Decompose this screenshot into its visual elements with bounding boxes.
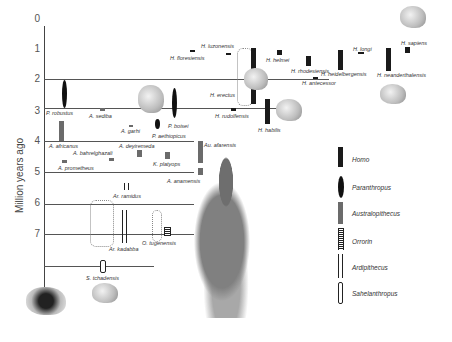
afarensis-reconstruction-illustration [186, 148, 266, 318]
gridline-2 [44, 108, 284, 109]
h-helmei-label: H. helmei [266, 57, 289, 63]
p-boisei-spindle [172, 88, 177, 118]
hominin-faces-icon [26, 287, 66, 315]
p-robustus-label: P. robustus [46, 110, 73, 116]
legend-ardipithecus-swatch [338, 254, 343, 278]
s-tchadensis-label: S. tchadensis [86, 275, 119, 281]
h-rudolfensis-label: H. rudolfensis [215, 113, 249, 119]
p-boisei-label: P. boisei [168, 123, 188, 129]
y-tick-3: 3 [30, 105, 40, 116]
h-neanderthalensis-bar [386, 48, 391, 71]
a-bahrelghazali-label: A. bahrelghazali [73, 150, 112, 156]
gridline-6 [44, 234, 194, 235]
ar-ramidus-label: Ar. ramidus [113, 193, 141, 199]
h-erectus-skull-icon [244, 68, 268, 90]
y-axis-label: Million years ago [14, 138, 25, 213]
legend-orrorin-swatch [338, 228, 344, 250]
h-floresiensis-bar [190, 50, 195, 52]
h-helmei-bar [277, 50, 282, 55]
sahelanthropus-skull-icon [92, 283, 118, 303]
y-tick-2: 2 [30, 73, 40, 84]
h-sapiens-bar [405, 47, 410, 53]
legend-homo-label: Homo [352, 156, 369, 163]
h-longi-bar [358, 52, 364, 54]
k-platyops-bar [165, 152, 170, 159]
h-rhodesiensis-bar [306, 56, 311, 66]
h-floresiensis-label: H. floresiensis [170, 55, 205, 61]
h-rhodesiensis-label: H. rhodesiensis [291, 68, 329, 74]
h-habilis-label: H. habilis [258, 127, 281, 133]
a-africanus-bar [59, 121, 64, 141]
h-luzonensis-bar [226, 53, 231, 55]
legend-australopithecus-swatch [338, 202, 343, 224]
ar-kadabba-label: Ar. kadabba [109, 246, 138, 252]
gridline-3 [44, 141, 194, 142]
h-habilis-skull-icon [276, 99, 302, 121]
y-tick-5: 5 [30, 166, 40, 177]
gridline-5 [44, 204, 194, 205]
gridline-1 [44, 79, 329, 80]
legend-paranthropus-label: Paranthropus [352, 184, 391, 191]
p-robustus-spindle [62, 80, 67, 108]
legend-ardipithecus-label: Ardipithecus [352, 264, 388, 271]
h-heidelbergensis-bar [338, 50, 343, 70]
o-tugenensis-label: O. tugenensis [142, 240, 176, 246]
k-platyops-label: K. platyops [153, 161, 180, 167]
h-neanderthalensis-label: H. neanderthalensis [377, 72, 426, 78]
h-habilis-bar [265, 99, 270, 124]
h-sapiens-label: H. sapiens [401, 40, 427, 46]
a-prometheus-bar [62, 160, 67, 163]
a-garhi-bar [129, 125, 133, 127]
p-aethiopicus-label: P. aethiopicus [152, 133, 186, 139]
h-longi-label: H. longi [353, 46, 372, 52]
s-tchadensis-bar [100, 260, 106, 273]
h-sapiens-skull-icon [400, 6, 426, 28]
ar-kadabba-bar [122, 210, 127, 243]
legend-sahelanthropus-label: Sahelanthropus [352, 290, 398, 297]
legend-homo-swatch [338, 147, 343, 167]
a-sediba-bar [100, 108, 105, 111]
ardi-skeleton-icon [90, 200, 114, 247]
ar-ramidus-bar [124, 183, 129, 190]
gridline-4 [44, 172, 194, 173]
neanderthal-skull-icon [380, 84, 406, 104]
a-deyiremeda-label: A. deyiremeda [119, 143, 154, 149]
a-prometheus-label: A. prometheus [58, 165, 94, 171]
paranthropus-skull-icon [138, 85, 164, 113]
y-tick-6: 6 [30, 197, 40, 208]
a-deyiremeda-bar [137, 150, 142, 157]
p-aethiopicus-spindle [155, 119, 160, 129]
h-rudolfensis-bar [231, 108, 236, 111]
h-antecessor-bar [313, 77, 318, 79]
h-antecessor-label: H. antecessor [302, 80, 336, 86]
h-luzonensis-label: H. luzonensis [201, 43, 234, 49]
y-tick-1: 1 [30, 43, 40, 54]
legend-australopithecus-label: Australopithecus [352, 210, 400, 217]
y-tick-0: 0 [30, 13, 40, 24]
legend-orrorin-label: Orrorin [352, 238, 372, 245]
gridline-0 [44, 46, 45, 47]
gridline-7 [44, 266, 154, 267]
o-tugenensis-bar [164, 227, 171, 236]
femur-icon [152, 210, 162, 242]
h-erectus-label: H. erectus [210, 92, 235, 98]
a-bahrelghazali-bar [109, 158, 114, 161]
y-axis-line [44, 26, 45, 306]
y-tick-7: 7 [30, 228, 40, 239]
a-africanus-label: A. africanus [49, 143, 78, 149]
a-garhi-label: A. garhi [121, 128, 140, 134]
a-sediba-label: A. sediba [89, 113, 112, 119]
legend-sahelanthropus-swatch [338, 282, 343, 304]
y-tick-4: 4 [30, 135, 40, 146]
legend-paranthropus-swatch [338, 176, 344, 198]
